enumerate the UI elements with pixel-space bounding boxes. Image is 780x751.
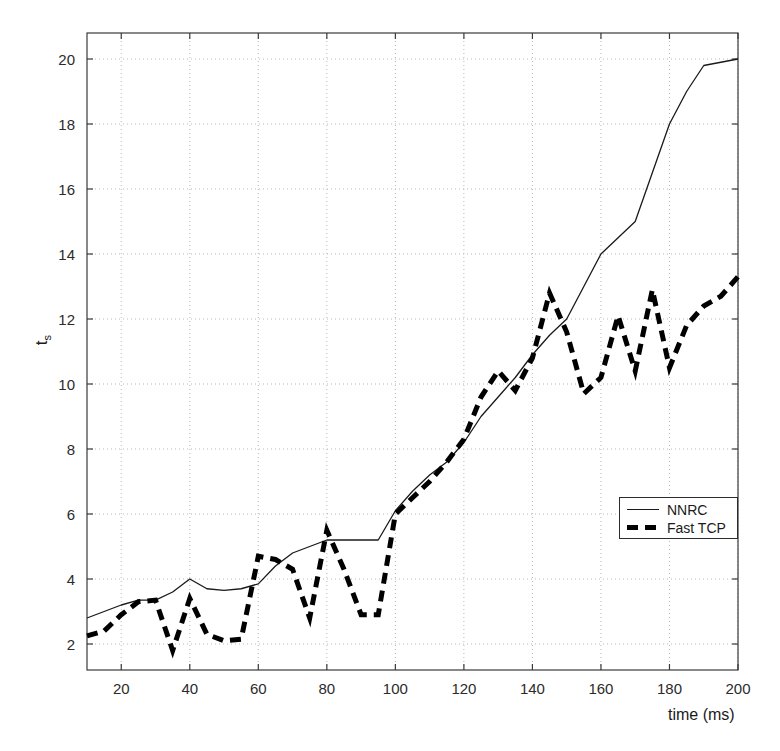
y-tick-label: 10 [41,376,75,393]
x-tick-label: 40 [181,680,198,697]
legend-label-nnrc: NNRC [667,502,707,518]
y-axis-title-subscript: s [41,335,53,341]
x-tick-label: 140 [520,680,545,697]
x-tick-label: 200 [725,680,750,697]
y-axis-title: ts [28,330,58,370]
x-tick-label: 160 [588,680,613,697]
x-tick-label: 60 [250,680,267,697]
chart-figure: 20406080100120140160180200 2468101214161… [0,0,780,751]
y-tick-label: 6 [41,506,75,523]
y-tick-label: 20 [41,51,75,68]
legend-swatch-dashed-line [626,522,660,534]
x-tick-label: 80 [318,680,335,697]
legend-label-fast-tcp: Fast TCP [667,520,726,536]
y-tick-label: 8 [41,441,75,458]
series-line-fast-tcp [87,277,738,651]
legend-item-fast-tcp: Fast TCP [626,519,737,537]
y-tick-label: 16 [41,181,75,198]
x-tick-label: 20 [113,680,130,697]
y-tick-label: 18 [41,116,75,133]
x-tick-label: 180 [657,680,682,697]
chart-legend: NNRC Fast TCP [619,497,738,539]
y-tick-label: 2 [41,636,75,653]
data-series [87,59,738,651]
y-axis-title-base: t [32,341,51,346]
x-tick-label: 120 [451,680,476,697]
legend-swatch-solid-line [626,504,660,516]
x-tick-label: 100 [383,680,408,697]
y-tick-label: 14 [41,246,75,263]
y-tick-label: 4 [41,571,75,588]
legend-item-nnrc: NNRC [626,501,737,519]
x-axis-title: time (ms) [668,706,735,724]
plot-area [0,0,780,751]
